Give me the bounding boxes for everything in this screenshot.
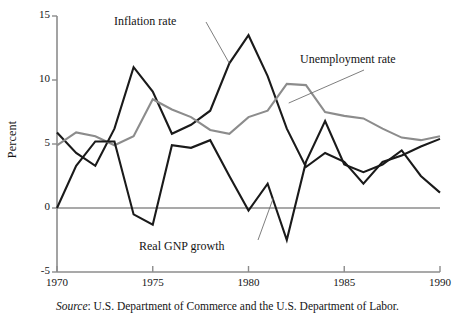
source-text: : U.S. Department of Commerce and the U.… [88, 300, 399, 312]
x-tick-label: 1980 [229, 276, 269, 288]
x-tick-label: 1990 [420, 276, 456, 288]
x-tick-label: 1970 [37, 276, 77, 288]
series-label-real-gnp-growth: Real GNP growth [139, 239, 225, 254]
annotation-leader-line [258, 198, 273, 240]
annotation-leader-line [206, 22, 229, 63]
y-tick-label: 0 [18, 200, 50, 212]
chart-plot-svg [0, 0, 456, 321]
series-label-unemployment-rate: Unemployment rate [300, 52, 396, 67]
x-tick-label: 1975 [133, 276, 173, 288]
y-tick-label: 10 [18, 72, 50, 84]
x-tick-marks [57, 266, 440, 272]
chart-figure: Percent -5051015 19701975198019851990 In… [0, 0, 456, 321]
y-tick-label: 5 [18, 136, 50, 148]
series-line-real-gnp-growth [57, 121, 440, 240]
y-tick-label: 15 [18, 8, 50, 20]
y-tick-label: -5 [18, 264, 50, 276]
x-tick-label: 1985 [324, 276, 364, 288]
source-note: Source: U.S. Department of Commerce and … [56, 300, 399, 312]
series-label-inflation-rate: Inflation rate [114, 14, 176, 29]
series-line-unemployment-rate [57, 84, 440, 145]
annotation-leader-line [289, 70, 364, 103]
source-prefix: Source [56, 300, 88, 312]
